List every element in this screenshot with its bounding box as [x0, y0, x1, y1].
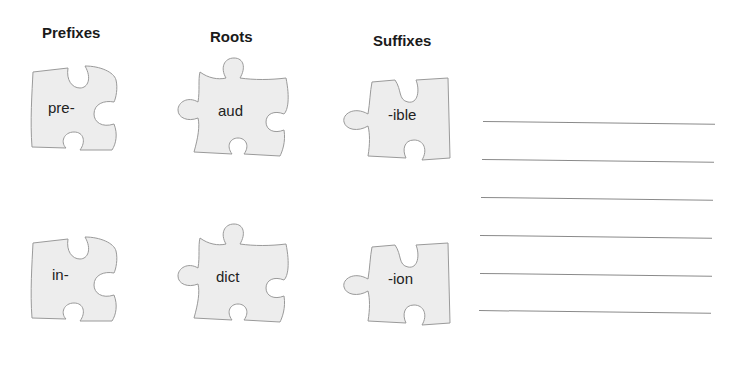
puzzle-piece-icon — [30, 62, 120, 152]
piece-label: aud — [218, 102, 243, 119]
header-prefixes: Prefixes — [42, 24, 100, 41]
suffix-piece[interactable]: -ion — [340, 243, 455, 328]
prefix-piece[interactable]: in- — [30, 233, 120, 323]
piece-label: in- — [52, 266, 69, 283]
piece-label: pre- — [48, 99, 75, 116]
answer-line[interactable] — [481, 197, 713, 201]
header-roots: Roots — [210, 28, 253, 45]
prefix-piece[interactable]: pre- — [30, 62, 120, 152]
root-piece[interactable]: aud — [178, 58, 303, 158]
answer-line[interactable] — [479, 310, 711, 314]
piece-label: dict — [216, 268, 239, 285]
answer-line[interactable] — [480, 273, 712, 277]
piece-label: -ible — [388, 106, 416, 123]
suffix-piece[interactable]: -ible — [340, 78, 455, 163]
root-piece[interactable]: dict — [178, 224, 303, 324]
puzzle-piece-icon — [178, 224, 303, 324]
answer-line[interactable] — [480, 235, 712, 239]
puzzle-piece-icon — [30, 233, 120, 323]
header-suffixes: Suffixes — [373, 32, 431, 49]
answer-line[interactable] — [483, 121, 715, 125]
answer-line[interactable] — [482, 159, 714, 163]
piece-label: -ion — [388, 270, 413, 287]
